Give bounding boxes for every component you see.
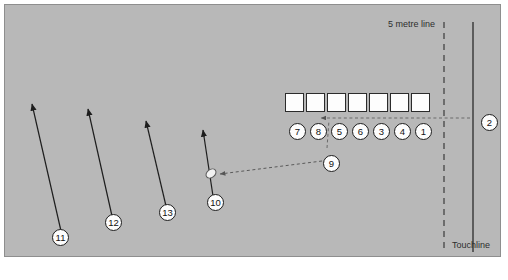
opposition-marker-4 (348, 93, 367, 112)
pass-arrow-9-to-ball (220, 161, 322, 174)
run-arrow-10 (203, 130, 213, 196)
opposition-marker-5 (369, 93, 388, 112)
opposition-marker-2 (306, 93, 325, 112)
touchline-label: Touchline (452, 240, 490, 250)
player-3: 3 (373, 123, 390, 140)
player-12: 12 (105, 214, 122, 231)
opposition-marker-6 (390, 93, 409, 112)
player-8: 8 (310, 123, 327, 140)
player-1: 1 (415, 123, 432, 140)
line-layer (0, 0, 508, 280)
run-arrow-13 (146, 121, 166, 206)
five-metre-line-label: 5 metre line (388, 19, 435, 29)
player-9: 9 (323, 155, 340, 172)
player-2: 2 (481, 114, 498, 131)
opposition-marker-1 (285, 93, 304, 112)
run-arrow-12 (88, 109, 112, 216)
opposition-marker-3 (327, 93, 346, 112)
run-arrow-11 (32, 104, 61, 231)
lineout-diagram: 7 8 5 6 3 4 1 9 2 10 13 12 11 5 metre li… (0, 0, 508, 280)
player-4: 4 (394, 123, 411, 140)
player-6: 6 (352, 123, 369, 140)
player-11: 11 (52, 229, 69, 246)
opposition-marker-7 (411, 93, 430, 112)
player-13: 13 (159, 204, 176, 221)
player-7: 7 (289, 123, 306, 140)
connector-9-to-throw-line (327, 120, 329, 148)
player-5: 5 (331, 123, 348, 140)
player-10: 10 (207, 194, 224, 211)
